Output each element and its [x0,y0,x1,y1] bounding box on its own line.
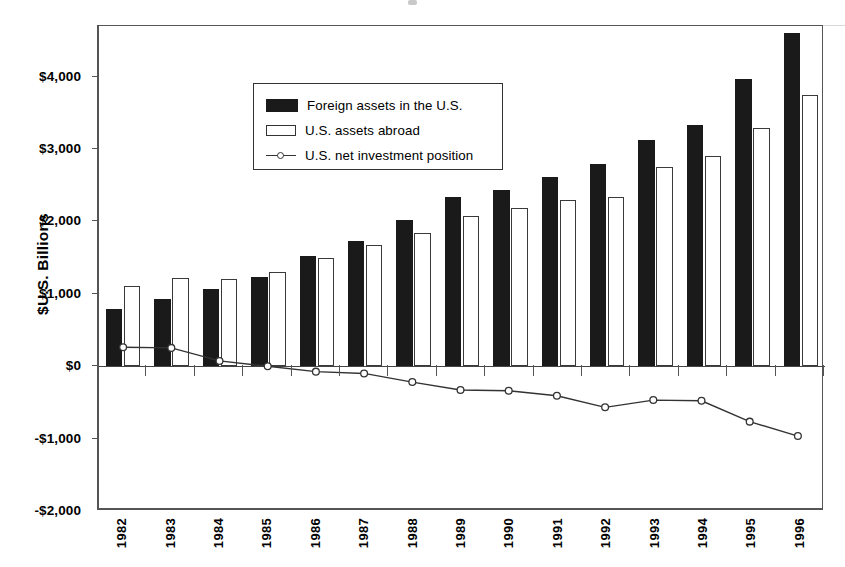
x-axis-tick-label-1983: 1983 [163,518,178,548]
x-axis-tick [726,365,727,376]
x-axis-tick-labels: 1982198319841985198619871988198919901991… [0,0,845,567]
x-axis-tick-label-1982: 1982 [114,518,129,548]
x-axis-tick-label-1990: 1990 [501,518,516,548]
x-axis-tick [678,365,679,376]
x-axis-tick [629,365,630,376]
x-axis-tick-label-1991: 1991 [550,518,565,548]
x-axis-tick [242,365,243,376]
x-axis-tick-label-1986: 1986 [308,518,323,548]
x-axis-tick [387,365,388,376]
x-axis-tick-label-1984: 1984 [211,518,226,548]
chart-root: $U.S. Billions $4,000$3,000$2,000$1,000$… [0,0,845,567]
x-axis-tick [533,365,534,376]
x-axis-tick [339,365,340,376]
x-axis-tick [484,365,485,376]
x-axis-tick [291,365,292,376]
x-axis-tick-label-1992: 1992 [598,518,613,548]
x-axis-tick-label-1985: 1985 [259,518,274,548]
x-axis-tick [436,365,437,376]
x-axis-tick [581,365,582,376]
x-axis-tick-label-1988: 1988 [405,518,420,548]
x-axis-tick-label-1989: 1989 [453,518,468,548]
x-axis-tick [194,365,195,376]
x-axis-tick-label-1987: 1987 [356,518,371,548]
x-axis-tick-label-1993: 1993 [647,518,662,548]
x-axis-tick [145,365,146,376]
x-axis-tick [775,365,776,376]
x-axis-tick [823,365,824,376]
x-axis-tick-label-1996: 1996 [792,518,807,548]
x-axis-tick-label-1995: 1995 [743,518,758,548]
x-axis-tick-label-1994: 1994 [695,518,710,548]
